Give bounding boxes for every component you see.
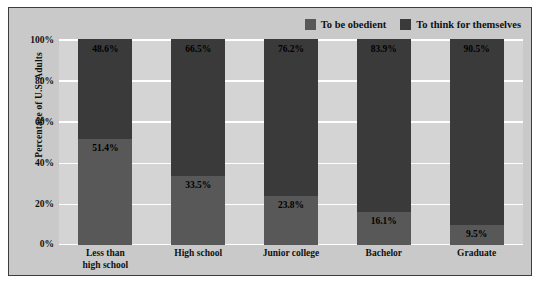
bar-value-label-obedient: 16.1% [371, 212, 397, 245]
ytick-label-80: 80% [35, 76, 54, 86]
x-axis-label-line: Junior college [245, 248, 338, 260]
bar-value-label-think: 48.6% [92, 39, 118, 139]
x-axis-label-line: Less than [59, 248, 152, 260]
bar-group-less-than-high-school[interactable]: 48.6% 51.4% [59, 39, 152, 245]
bar-segment-obedient[interactable]: 33.5% [171, 176, 225, 245]
x-axis-label-line: high school [59, 260, 152, 272]
x-axis-label-line: Bachelor [337, 248, 430, 260]
bar-segment-think[interactable]: 76.2% [264, 39, 318, 196]
plot-area: 100% 80% 60% 40% 20% 0% 48.6% 51.4% [59, 39, 523, 245]
x-axis-labels: Less than high school High school Junior… [59, 248, 523, 271]
bar-segment-obedient[interactable]: 51.4% [78, 139, 132, 245]
bar-value-label-obedient: 9.5% [466, 225, 487, 245]
bar-value-label-think: 83.9% [371, 39, 397, 212]
legend-swatch-icon-think [400, 19, 411, 30]
bar-group-high-school[interactable]: 66.5% 33.5% [152, 39, 245, 245]
x-axis-label-bachelor: Bachelor [337, 248, 430, 271]
legend-label-obedient: To be obedient [321, 19, 387, 30]
bar-segment-think[interactable]: 48.6% [78, 39, 132, 139]
bar-stack: 76.2% 23.8% [264, 39, 318, 245]
ytick-label-100: 100% [30, 35, 54, 45]
legend-item-to-be-obedient[interactable]: To be obedient [305, 19, 387, 30]
x-axis-label-junior-college: Junior college [245, 248, 338, 271]
legend-swatch-icon-obedient [305, 19, 316, 30]
legend-label-think: To think for themselves [416, 19, 521, 30]
bar-segment-think[interactable]: 83.9% [357, 39, 411, 212]
legend-item-to-think-for-themselves[interactable]: To think for themselves [400, 19, 521, 30]
bar-value-label-obedient: 23.8% [278, 196, 304, 245]
stacked-bar-chart-figure: To be obedient To think for themselves P… [0, 0, 540, 284]
bar-value-label-think: 66.5% [185, 39, 211, 176]
bar-stack: 48.6% 51.4% [78, 39, 132, 245]
bar-stack: 83.9% 16.1% [357, 39, 411, 245]
bar-value-label-obedient: 33.5% [185, 176, 211, 245]
bar-value-label-think: 90.5% [464, 39, 490, 225]
bar-value-label-obedient: 51.4% [92, 139, 118, 245]
bar-group-bachelor[interactable]: 83.9% 16.1% [337, 39, 430, 245]
bar-segment-obedient[interactable]: 16.1% [357, 212, 411, 245]
bar-group-junior-college[interactable]: 76.2% 23.8% [245, 39, 338, 245]
ytick-label-0: 0% [40, 239, 54, 249]
bar-segment-obedient[interactable]: 9.5% [450, 225, 504, 245]
chart-legend: To be obedient To think for themselves [305, 17, 521, 31]
bar-stack: 90.5% 9.5% [450, 39, 504, 245]
x-axis-label-graduate: Graduate [430, 248, 523, 271]
bar-segment-think[interactable]: 90.5% [450, 39, 504, 225]
bar-segment-think[interactable]: 66.5% [171, 39, 225, 176]
bar-stack: 66.5% 33.5% [171, 39, 225, 245]
bar-segment-obedient[interactable]: 23.8% [264, 196, 318, 245]
x-axis-label-line: High school [152, 248, 245, 260]
ytick-label-60: 60% [35, 117, 54, 127]
bar-series-container: 48.6% 51.4% 66.5% 33.5% [59, 39, 523, 245]
ytick-label-40: 40% [35, 158, 54, 168]
chart-frame: To be obedient To think for themselves P… [8, 7, 532, 276]
x-axis-label-high-school: High school [152, 248, 245, 271]
x-axis-label-less-than-high-school: Less than high school [59, 248, 152, 271]
ytick-label-20: 20% [35, 199, 54, 209]
x-axis-label-line: Graduate [430, 248, 523, 260]
bar-group-graduate[interactable]: 90.5% 9.5% [430, 39, 523, 245]
bar-value-label-think: 76.2% [278, 39, 304, 196]
